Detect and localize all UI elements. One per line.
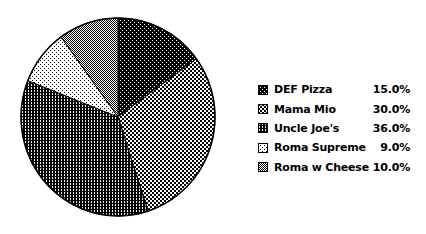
legend-item-mama-mio: Mama Mio 30.0%: [258, 99, 410, 118]
legend-label: Roma Supreme: [274, 141, 366, 154]
legend-item-roma-supreme: Roma Supreme 9.0%: [258, 138, 410, 157]
legend-item-uncle-joes: Uncle Joe's 36.0%: [258, 119, 410, 138]
legend-swatch-uncle-joes-icon: [258, 123, 268, 133]
legend: DEF Pizza 15.0% Mama Mio 30.0% Uncle Joe…: [258, 80, 410, 177]
legend-swatch-def-pizza-icon: [258, 85, 268, 95]
legend-label: DEF Pizza: [274, 83, 332, 96]
legend-value: 10.0%: [373, 161, 410, 174]
legend-item-def-pizza: DEF Pizza 15.0%: [258, 80, 410, 99]
chart-canvas: DEF Pizza 15.0% Mama Mio 30.0% Uncle Joe…: [0, 0, 426, 234]
legend-swatch-roma-supreme-icon: [258, 143, 268, 153]
legend-swatch-roma-w-cheese-icon: [258, 162, 268, 172]
legend-swatch-mama-mio-icon: [258, 104, 268, 114]
legend-label: Mama Mio: [274, 103, 336, 116]
legend-label: Uncle Joe's: [274, 122, 339, 135]
legend-value: 36.0%: [373, 122, 410, 135]
legend-value: 30.0%: [373, 103, 410, 116]
legend-value: 9.0%: [380, 141, 410, 154]
legend-value: 15.0%: [373, 83, 410, 96]
legend-item-roma-w-cheese: Roma w Cheese 10.0%: [258, 158, 410, 177]
legend-label: Roma w Cheese: [274, 161, 369, 174]
